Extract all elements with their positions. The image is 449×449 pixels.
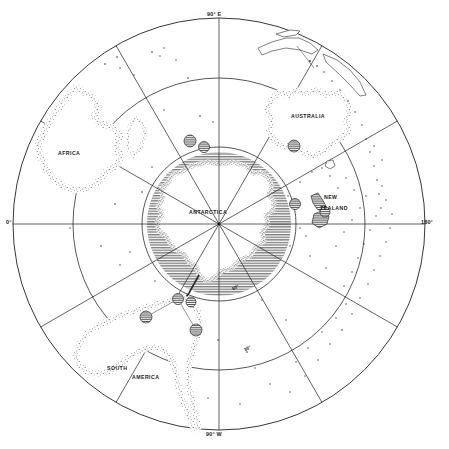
map-canvas bbox=[0, 0, 449, 449]
place-label-australia: AUSTRALIA bbox=[291, 113, 325, 119]
polar-map-figure: 90° E 180° 90° W 0° 60° 30° AFRICA AUSTR… bbox=[0, 0, 449, 449]
place-label-south: SOUTH bbox=[107, 365, 127, 371]
south-america-landmass bbox=[76, 296, 200, 428]
place-label-zealand: ZEALAND bbox=[320, 205, 348, 211]
place-label-africa: AFRICA bbox=[58, 150, 80, 156]
meridian-label-bottom: 90° W bbox=[206, 431, 222, 437]
place-label-america: AMERICA bbox=[132, 374, 159, 380]
south-pole-dot bbox=[218, 223, 221, 226]
meridian-label-top: 90° E bbox=[207, 11, 221, 17]
meridian-label-right: 180° bbox=[421, 219, 433, 225]
place-label-antarctica: ANTARCTICA bbox=[189, 209, 227, 215]
place-label-new: NEW bbox=[324, 194, 337, 200]
meridian-label-left: 0° bbox=[6, 219, 12, 225]
africa-landmass bbox=[38, 88, 145, 190]
